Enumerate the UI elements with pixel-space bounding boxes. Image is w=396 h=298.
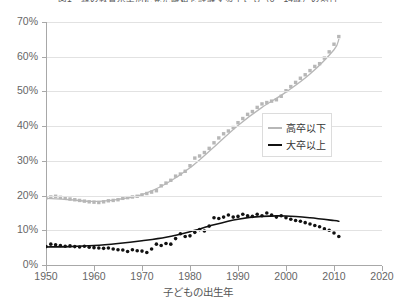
data-point — [83, 199, 86, 202]
data-point — [116, 198, 119, 201]
data-point — [49, 242, 53, 246]
data-point — [337, 235, 341, 239]
y-tick-mark — [42, 230, 47, 231]
data-point — [313, 224, 317, 228]
data-point — [212, 216, 216, 220]
data-point — [217, 217, 221, 221]
data-point — [212, 141, 215, 144]
x-tick-label: 1980 — [167, 270, 213, 282]
data-point — [97, 201, 100, 204]
y-tick-label: 50% — [0, 84, 38, 96]
data-point — [59, 244, 63, 248]
data-point — [265, 211, 269, 215]
legend-item-0[interactable]: 高卒以下 — [268, 119, 327, 136]
y-tick-label: 10% — [0, 223, 38, 235]
x-axis-line — [46, 265, 382, 266]
data-point — [251, 215, 255, 219]
data-point — [46, 196, 48, 199]
data-point — [198, 154, 201, 157]
data-point — [78, 245, 82, 249]
data-point — [207, 224, 211, 228]
data-point — [318, 225, 322, 229]
data-point — [164, 242, 168, 246]
data-point — [169, 242, 173, 246]
data-point — [83, 244, 87, 248]
y-tick-mark — [42, 57, 47, 58]
data-point — [303, 221, 307, 225]
data-point — [179, 172, 182, 175]
legend-swatch-icon — [268, 144, 282, 146]
data-point — [102, 247, 106, 251]
x-tick-label: 2010 — [311, 270, 357, 282]
x-axis-title: 子どもの出生年 — [0, 284, 396, 298]
data-point — [279, 214, 283, 218]
data-point — [160, 184, 163, 187]
data-point — [63, 244, 67, 248]
gridline — [46, 196, 382, 197]
legend-item-1[interactable]: 大卒以上 — [268, 136, 327, 153]
data-point — [256, 106, 259, 109]
data-point — [164, 181, 167, 184]
x-tick-label: 1960 — [71, 270, 117, 282]
data-point — [318, 62, 321, 65]
data-point — [87, 246, 91, 250]
data-point — [116, 248, 120, 252]
data-point — [227, 129, 230, 132]
data-point — [155, 189, 158, 192]
data-point — [299, 219, 303, 223]
legend-label: 大卒以上 — [286, 137, 326, 152]
y-tick-mark — [42, 91, 47, 92]
data-point — [111, 247, 115, 251]
gridline — [46, 230, 382, 231]
legend-label: 高卒以下 — [286, 120, 326, 135]
data-point — [107, 246, 111, 250]
data-point — [255, 213, 259, 217]
data-point — [121, 248, 125, 252]
gridline — [46, 57, 382, 58]
data-point — [131, 248, 135, 252]
chart-legend: 高卒以下 大卒以上 — [262, 113, 332, 157]
data-point — [217, 136, 220, 139]
data-point — [155, 242, 159, 246]
data-point — [246, 214, 250, 218]
data-point — [112, 199, 115, 202]
data-point — [294, 81, 297, 84]
data-point — [145, 251, 149, 255]
x-tick-label: 1990 — [215, 270, 261, 282]
data-point — [121, 197, 124, 200]
y-tick-mark — [42, 161, 47, 162]
data-point — [260, 214, 264, 218]
data-point — [231, 215, 235, 219]
data-point — [97, 246, 101, 250]
data-point — [332, 43, 335, 46]
data-point — [313, 65, 316, 68]
y-tick-label: 40% — [0, 119, 38, 131]
data-point — [92, 246, 96, 250]
data-point — [54, 243, 58, 247]
y-tick-label: 60% — [0, 50, 38, 62]
gridline — [46, 91, 382, 92]
data-point — [88, 200, 91, 203]
data-point — [169, 179, 172, 182]
data-point — [78, 199, 81, 202]
data-point — [208, 147, 211, 150]
data-point — [174, 174, 177, 177]
data-point — [289, 217, 293, 221]
data-point — [64, 197, 67, 200]
data-point — [188, 234, 192, 238]
data-point — [68, 197, 71, 200]
data-point — [92, 200, 95, 203]
data-point — [46, 245, 48, 249]
data-point — [299, 77, 302, 80]
x-tick-label: 2000 — [263, 270, 309, 282]
data-point — [140, 249, 144, 253]
data-point — [203, 151, 206, 154]
y-tick-mark — [42, 196, 47, 197]
data-point — [73, 198, 76, 201]
data-point — [222, 215, 226, 219]
data-point — [251, 110, 254, 113]
y-tick-mark — [42, 22, 47, 23]
y-tick-label: 30% — [0, 154, 38, 166]
data-point — [184, 170, 187, 173]
data-point — [246, 113, 249, 116]
